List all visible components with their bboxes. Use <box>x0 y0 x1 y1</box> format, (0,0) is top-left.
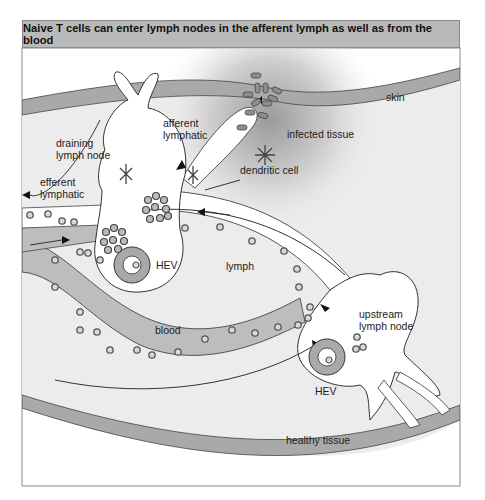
diagram-artwork <box>0 0 485 500</box>
label-infected-tissue: infected tissue <box>287 128 354 140</box>
figure-title: Naive T cells can enter lymph nodes in t… <box>22 20 460 48</box>
label-draining-node-2: lymph node <box>56 149 110 161</box>
efferent-lymphatic-vessel <box>22 205 105 228</box>
label-draining-node-1: draining <box>56 137 93 149</box>
label-upstream-node-2: lymph node <box>359 320 413 332</box>
label-skin: skin <box>386 91 405 103</box>
label-lymph: lymph <box>226 260 254 272</box>
label-hev-right: HEV <box>315 385 337 397</box>
lymph-node-diagram: Naive T cells can enter lymph nodes in t… <box>0 0 485 500</box>
label-healthy-tissue: healthy tissue <box>286 434 350 446</box>
label-blood: blood <box>155 324 181 336</box>
hev-right-vessel <box>309 339 345 375</box>
label-afferent-lymphatic-1: afferent <box>163 117 198 129</box>
label-dendritic-cell: dendritic cell <box>240 164 298 176</box>
label-efferent-lymphatic-1: efferent <box>40 176 75 188</box>
label-efferent-lymphatic-2: lymphatic <box>40 188 84 200</box>
label-afferent-lymphatic-2: lymphatic <box>163 129 207 141</box>
dendritic-cell-icon <box>255 145 275 165</box>
label-hev-left: HEV <box>156 259 178 271</box>
label-upstream-node-1: upstream <box>359 308 403 320</box>
